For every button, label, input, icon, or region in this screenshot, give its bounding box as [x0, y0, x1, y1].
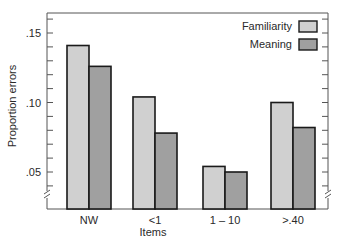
legend-swatch: [299, 21, 317, 32]
legend-label: Familiarity: [242, 20, 293, 32]
bar-familiarity: [67, 46, 89, 209]
legend-item-meaning: Meaning: [250, 38, 317, 50]
bar-chart: .05.10.15 NW<11 – 10>.40 FamiliarityMean…: [0, 0, 342, 251]
bars: [67, 46, 315, 209]
bar-familiarity: [133, 97, 155, 209]
legend-swatch: [299, 39, 317, 50]
bar-familiarity: [271, 103, 293, 210]
legend: FamiliarityMeaning: [242, 20, 317, 50]
x-tick-label: NW: [80, 214, 99, 226]
y-tick-label: .10: [26, 97, 41, 109]
bar-familiarity: [203, 166, 225, 209]
right-axis-break-icon: [325, 190, 331, 198]
legend-item-familiarity: Familiarity: [242, 20, 317, 32]
y-tick-label: .05: [26, 166, 41, 178]
bar-meaning: [293, 128, 315, 209]
bar-meaning: [225, 172, 247, 209]
bar-group: [67, 46, 111, 209]
x-tick-label: <1: [149, 214, 162, 226]
y-axis-label: Proportion errors: [6, 64, 18, 147]
bar-group: [203, 166, 247, 209]
x-axis-tick-labels: NW<11 – 10>.40: [80, 214, 304, 226]
bar-group: [271, 103, 315, 210]
legend-label: Meaning: [250, 38, 292, 50]
bar-meaning: [155, 133, 177, 209]
bar-meaning: [89, 66, 111, 209]
x-tick-label: 1 – 10: [210, 214, 241, 226]
y-tick-label: .15: [26, 27, 41, 39]
x-axis-label: Items: [140, 226, 167, 238]
x-tick-label: >.40: [282, 214, 304, 226]
left-axis-break-icon: [44, 190, 50, 198]
bar-group: [133, 97, 177, 209]
